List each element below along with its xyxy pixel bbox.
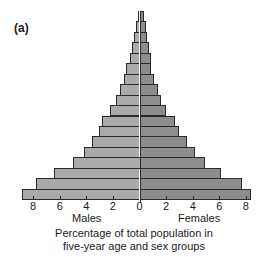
x-tick bbox=[33, 196, 34, 199]
x-tick bbox=[166, 196, 167, 199]
x-tick-label: 6 bbox=[50, 200, 70, 212]
females-label: Females bbox=[178, 212, 220, 224]
center-axis-line bbox=[140, 11, 141, 203]
x-axis-title-line2: five-year age and sex groups bbox=[0, 240, 268, 253]
x-tick-label: 2 bbox=[103, 200, 123, 212]
x-tick bbox=[193, 196, 194, 199]
x-tick bbox=[60, 196, 61, 199]
male-bar bbox=[22, 189, 139, 200]
x-tick bbox=[219, 196, 220, 199]
x-tick bbox=[140, 196, 141, 199]
x-tick-label: 8 bbox=[23, 200, 43, 212]
x-tick bbox=[246, 196, 247, 199]
x-tick-label: 6 bbox=[209, 200, 229, 212]
population-pyramid-chart: 864202468 bbox=[0, 0, 268, 257]
x-tick-label: 2 bbox=[156, 200, 176, 212]
female-bar bbox=[140, 189, 252, 200]
males-label: Males bbox=[72, 212, 101, 224]
x-tick-label: 0 bbox=[130, 200, 150, 212]
x-tick-label: 4 bbox=[183, 200, 203, 212]
x-axis-title-line1: Percentage of total population in bbox=[0, 227, 268, 240]
x-tick bbox=[86, 196, 87, 199]
x-tick-label: 8 bbox=[236, 200, 256, 212]
x-tick bbox=[113, 196, 114, 199]
x-tick-label: 4 bbox=[76, 200, 96, 212]
